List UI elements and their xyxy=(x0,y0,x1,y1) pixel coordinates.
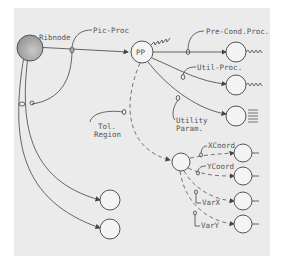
label-region: Region xyxy=(94,130,121,139)
node-varx xyxy=(234,192,252,210)
label-vary: VarY xyxy=(201,221,220,230)
edge-hub-xcoord xyxy=(190,153,234,158)
zigzag-icon xyxy=(246,83,262,86)
node-precond xyxy=(226,42,246,62)
label-ycoord: YCoord xyxy=(207,162,234,171)
connector xyxy=(194,211,197,215)
node-xcoord xyxy=(234,144,252,162)
connector xyxy=(181,75,185,80)
stack-lines-icon xyxy=(248,110,258,122)
label-varx: VarX xyxy=(202,198,221,207)
zigzag-icon xyxy=(246,50,262,53)
label-pre-cond-proc: Pre-Cond.Proc. xyxy=(206,27,269,36)
label-xcoord: XCoord xyxy=(208,141,235,150)
connector xyxy=(30,101,34,105)
diagram-canvas: Pic-Proc Ribnode PP Pre-Cond.Proc. Util-… xyxy=(0,0,284,265)
label-util-proc: Util-Proc. xyxy=(197,63,242,72)
label-pp: PP xyxy=(136,48,146,57)
edge-ribnode-node-b xyxy=(19,56,100,228)
hook-precond xyxy=(188,31,204,50)
connector xyxy=(195,190,198,194)
hook-tol-region xyxy=(90,111,123,122)
node-ribnode-child-a xyxy=(100,190,120,210)
hook-varx xyxy=(196,194,201,203)
zigzag-icon xyxy=(151,38,170,45)
hook-ycoord xyxy=(198,166,206,171)
hook-vary xyxy=(195,215,200,226)
node-ycoord xyxy=(234,167,252,185)
connector xyxy=(19,102,25,106)
hook-pic-proc xyxy=(72,30,92,47)
edge-ribnode-pp xyxy=(34,47,128,52)
edge-hub-varx xyxy=(184,171,234,201)
edge-pp-hub xyxy=(130,63,170,160)
edge-ribnode-node-a xyxy=(25,56,100,200)
label-param: Param. xyxy=(176,124,203,133)
label-ribnode: Ribnode xyxy=(39,33,71,42)
hook-util xyxy=(183,67,196,75)
hook-xcoord xyxy=(201,146,207,153)
node-ribnode-child-b xyxy=(100,219,120,239)
connector xyxy=(200,153,203,157)
node-hub xyxy=(172,153,190,171)
node-vary xyxy=(234,215,252,233)
node-util xyxy=(226,75,246,95)
connector xyxy=(176,96,180,101)
node-utility-param xyxy=(226,106,246,126)
label-pic-proc: Pic-Proc xyxy=(93,26,129,35)
